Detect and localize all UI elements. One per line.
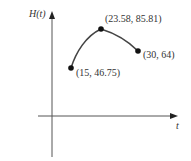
y-axis-label: H(t) <box>28 8 46 20</box>
data-point-1 <box>68 65 74 71</box>
x-axis-label: t <box>176 120 179 131</box>
point-label-3: (30, 64) <box>143 49 175 61</box>
data-point-2 <box>98 26 104 32</box>
data-point-3 <box>135 48 141 54</box>
curve-h-of-t <box>71 29 138 68</box>
x-axis-arrow-icon <box>170 113 178 119</box>
point-label-2: (23.58, 85.81) <box>105 13 162 25</box>
point-label-1: (15, 46.75) <box>76 67 120 79</box>
chart: H(t) t (15, 46.75) (23.58, 85.81) (30, 6… <box>0 0 191 161</box>
y-axis-arrow-icon <box>49 11 55 19</box>
